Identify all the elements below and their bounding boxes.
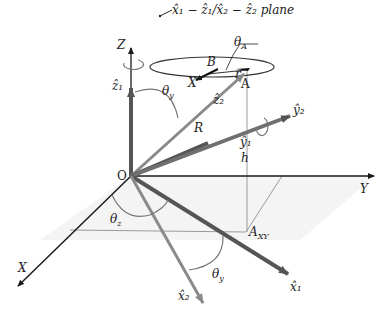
x-axis-label: X (17, 261, 27, 275)
z2-label: ẑ₂ (212, 93, 224, 107)
y2-vector (131, 116, 290, 176)
plane-label: x̂₁ − ẑ₁/x̂₂ − ẑ₂ plane (172, 3, 294, 17)
theta-y-bottom-arc (189, 236, 223, 270)
x-direction-arrow-B (196, 69, 218, 80)
plane-label-dot (159, 15, 161, 17)
rotation-icon-z1 (124, 60, 144, 69)
y2-label: ŷ₂ (292, 103, 305, 117)
point-x-label: X (187, 76, 197, 90)
theta-y-top-label: θy (162, 84, 174, 100)
z-axis-label: Z (116, 38, 126, 52)
plane-label-leader (160, 10, 172, 16)
y-axis-label: Y (360, 182, 369, 196)
point-a-label: A (240, 77, 250, 91)
h-label: h (241, 151, 249, 165)
point-b-label: B (206, 55, 216, 69)
x2-label: x̂₂ (178, 289, 190, 303)
z1-label: ẑ₁ (111, 79, 123, 93)
theta-a-label: θA (234, 35, 247, 51)
y1-label: ŷ₁ (239, 135, 252, 149)
theta-y-bottom-label: θy (212, 267, 224, 283)
coordinate-diagram: x̂₁ − ẑ₁/x̂₂ − ẑ₂ plane θA B r X A Z ẑ₁ … (0, 0, 387, 320)
x1-label: x̂₁ (290, 280, 302, 294)
r-length-label: R (193, 121, 203, 135)
diagram-canvas: x̂₁ − ẑ₁/x̂₂ − ẑ₂ plane θA B r X A Z ẑ₁ … (0, 0, 387, 320)
origin-label: O (117, 169, 127, 183)
